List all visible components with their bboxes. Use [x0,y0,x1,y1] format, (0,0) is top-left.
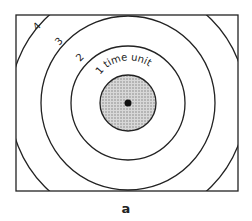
diagram: 1 time unit 2 3 4 a [0,0,252,221]
center-point [125,100,132,107]
ring-2-label: 2 [74,51,86,63]
ring-4-label: 4 [31,20,43,32]
ring-1-label: 1 time unit [93,51,154,76]
caption: a [122,201,131,216]
